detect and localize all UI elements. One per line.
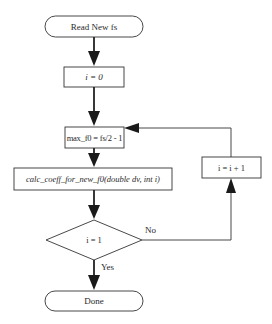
decision-label: i = 1 (86, 235, 102, 245)
increment-label: i = i + 1 (218, 163, 245, 173)
increment-box: i = i + 1 (202, 157, 261, 178)
start-terminal: Read New fs (45, 16, 143, 37)
maxf0-box: max_f0 = fs/2 - 1 (65, 127, 124, 148)
done-label: Done (84, 296, 104, 306)
calc-label: calc_coeff_for_new_f0(double dv, int i) (26, 174, 160, 184)
arrow-init-to-maxf0 (88, 87, 100, 126)
done-terminal: Done (45, 291, 143, 311)
calc-box: calc_coeff_for_new_f0(double dv, int i) (14, 168, 172, 190)
arrow-calc-to-decision (88, 190, 100, 219)
arrow-maxf0-to-calc (88, 148, 100, 167)
init-box: i = 0 (64, 67, 124, 87)
no-edge-label: No (145, 225, 156, 235)
arrow-yes-branch (88, 260, 100, 290)
start-label: Read New fs (71, 22, 118, 32)
arrow-start-to-init (88, 37, 100, 66)
yes-edge-label: Yes (101, 262, 114, 272)
arrow-loop-back (124, 123, 231, 157)
decision-diamond: i = 1 (66, 230, 122, 250)
init-label: i = 0 (85, 72, 103, 82)
maxf0-label: max_f0 = fs/2 - 1 (67, 133, 123, 143)
